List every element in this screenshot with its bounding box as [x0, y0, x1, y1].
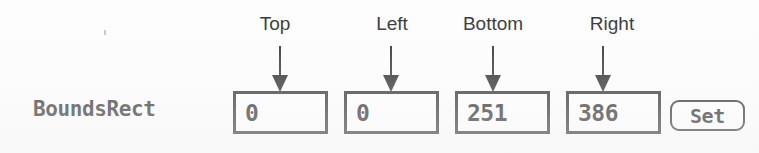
caption-top: Top: [225, 13, 325, 35]
arrow-shaft: [279, 46, 281, 76]
caption-left: Left: [342, 13, 442, 35]
bounds-rect-panel: Top Left Bottom Right BoundsRect 0 0 251…: [0, 0, 759, 153]
set-button[interactable]: Set: [670, 100, 745, 131]
left-field[interactable]: 0: [344, 91, 439, 134]
caption-top-label: Top: [260, 13, 291, 34]
right-field[interactable]: 386: [566, 91, 661, 134]
top-field-value: 0: [245, 101, 258, 124]
bounds-rect-label: BoundsRect: [33, 97, 155, 121]
arrow-to-bottom-field: [485, 46, 502, 92]
arrow-to-left-field: [383, 46, 400, 92]
bottom-field-value: 251: [467, 101, 507, 124]
arrow-to-right-field: [595, 46, 612, 92]
scan-artifact-speck: [104, 30, 106, 35]
arrow-shaft: [602, 46, 604, 76]
arrow-head-icon: [272, 75, 288, 92]
caption-right-label: Right: [590, 13, 634, 34]
arrow-shaft: [390, 46, 392, 76]
caption-bottom: Bottom: [443, 13, 543, 35]
set-button-label: Set: [690, 106, 725, 126]
caption-right: Right: [562, 13, 662, 35]
arrow-to-top-field: [272, 46, 289, 92]
right-field-value: 386: [578, 101, 618, 124]
arrow-head-icon: [595, 75, 611, 92]
arrow-head-icon: [383, 75, 399, 92]
top-field[interactable]: 0: [233, 91, 328, 134]
caption-bottom-label: Bottom: [463, 13, 523, 34]
bottom-field[interactable]: 251: [455, 91, 550, 134]
arrow-shaft: [492, 46, 494, 76]
arrow-head-icon: [485, 75, 501, 92]
left-field-value: 0: [356, 101, 369, 124]
caption-left-label: Left: [376, 13, 408, 34]
